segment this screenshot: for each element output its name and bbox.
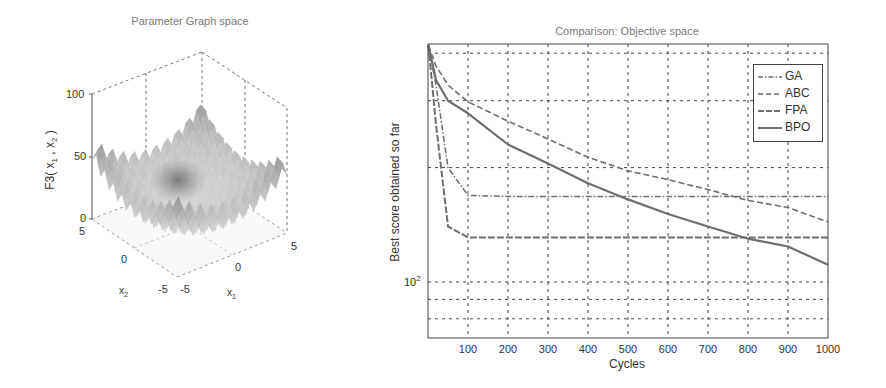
- x-tick-100: 100: [459, 343, 477, 355]
- legend-item-fpa: FPA: [758, 103, 820, 119]
- z-label-sub1: 1: [50, 158, 59, 162]
- z-label-sub2: 2: [50, 138, 59, 142]
- x2-tick-5: 5: [79, 225, 85, 237]
- legend-item-abc: ABC: [758, 86, 820, 102]
- x2-tick-neg5: -5: [158, 283, 168, 295]
- z-tick-0: 0: [80, 212, 86, 224]
- legend-label-abc: ABC: [785, 86, 810, 100]
- x-tick-900: 900: [779, 343, 797, 355]
- legend-line-fpa-icon: [758, 103, 782, 119]
- legend-label-ga: GA: [785, 69, 802, 83]
- y-axis-label: Best score obtained so far: [388, 122, 402, 261]
- legend-label-fpa: FPA: [785, 103, 807, 117]
- x-tick-700: 700: [699, 343, 717, 355]
- x-tick-500: 500: [619, 343, 637, 355]
- x1-tick-0: 0: [235, 261, 241, 273]
- z-tick-50: 50: [74, 150, 86, 162]
- y-tick-exp: 2: [416, 274, 420, 283]
- x-tick-800: 800: [739, 343, 757, 355]
- x1-label-sub: 1: [232, 293, 236, 300]
- x-tick-1000: 1000: [816, 343, 840, 355]
- z-label-mid: , x: [43, 142, 57, 158]
- legend-line-ga-icon: [758, 69, 782, 85]
- x1-tick-neg5: -5: [180, 283, 190, 295]
- x-tick-600: 600: [659, 343, 677, 355]
- legend-label-bpo: BPO: [785, 120, 810, 134]
- x1-tick-5: 5: [291, 240, 297, 252]
- chart-legend: GA ABC FPA BPO: [753, 64, 823, 142]
- x-tick-400: 400: [579, 343, 597, 355]
- y-tick-base: 10: [404, 276, 416, 288]
- x-tick-200: 200: [499, 343, 517, 355]
- legend-line-abc-icon: [758, 86, 782, 102]
- legend-item-bpo: BPO: [758, 120, 820, 136]
- x-tick-300: 300: [539, 343, 557, 355]
- z-axis-label: F3( x1 , x2 ): [43, 130, 59, 190]
- z-label-end: ): [43, 130, 57, 137]
- legend-item-ga: GA: [758, 69, 820, 85]
- legend-line-bpo-icon: [758, 120, 782, 136]
- y-tick-100: 102: [404, 274, 421, 288]
- z-tick-100: 100: [66, 88, 84, 100]
- x2-axis-label: x2: [119, 285, 128, 298]
- z-label-text: F3( x: [43, 162, 57, 189]
- x2-label-sub: 2: [124, 291, 128, 298]
- convergence-chart-title: Comparison: Objective space: [555, 25, 699, 37]
- x-axis-label: Cycles: [609, 357, 645, 371]
- x2-tick-0: 0: [121, 253, 127, 265]
- x1-axis-label: x1: [227, 287, 236, 300]
